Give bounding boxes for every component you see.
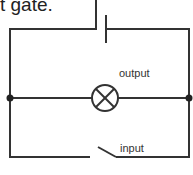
junction-dot-left (7, 95, 14, 102)
circuit-diagram (0, 0, 193, 175)
output-label: output (119, 67, 150, 79)
wire-top-right (106, 29, 189, 157)
wire-top-left (10, 0, 96, 157)
switch-icon (98, 147, 116, 157)
junction-dot-right (186, 95, 193, 102)
input-label: input (120, 142, 144, 154)
